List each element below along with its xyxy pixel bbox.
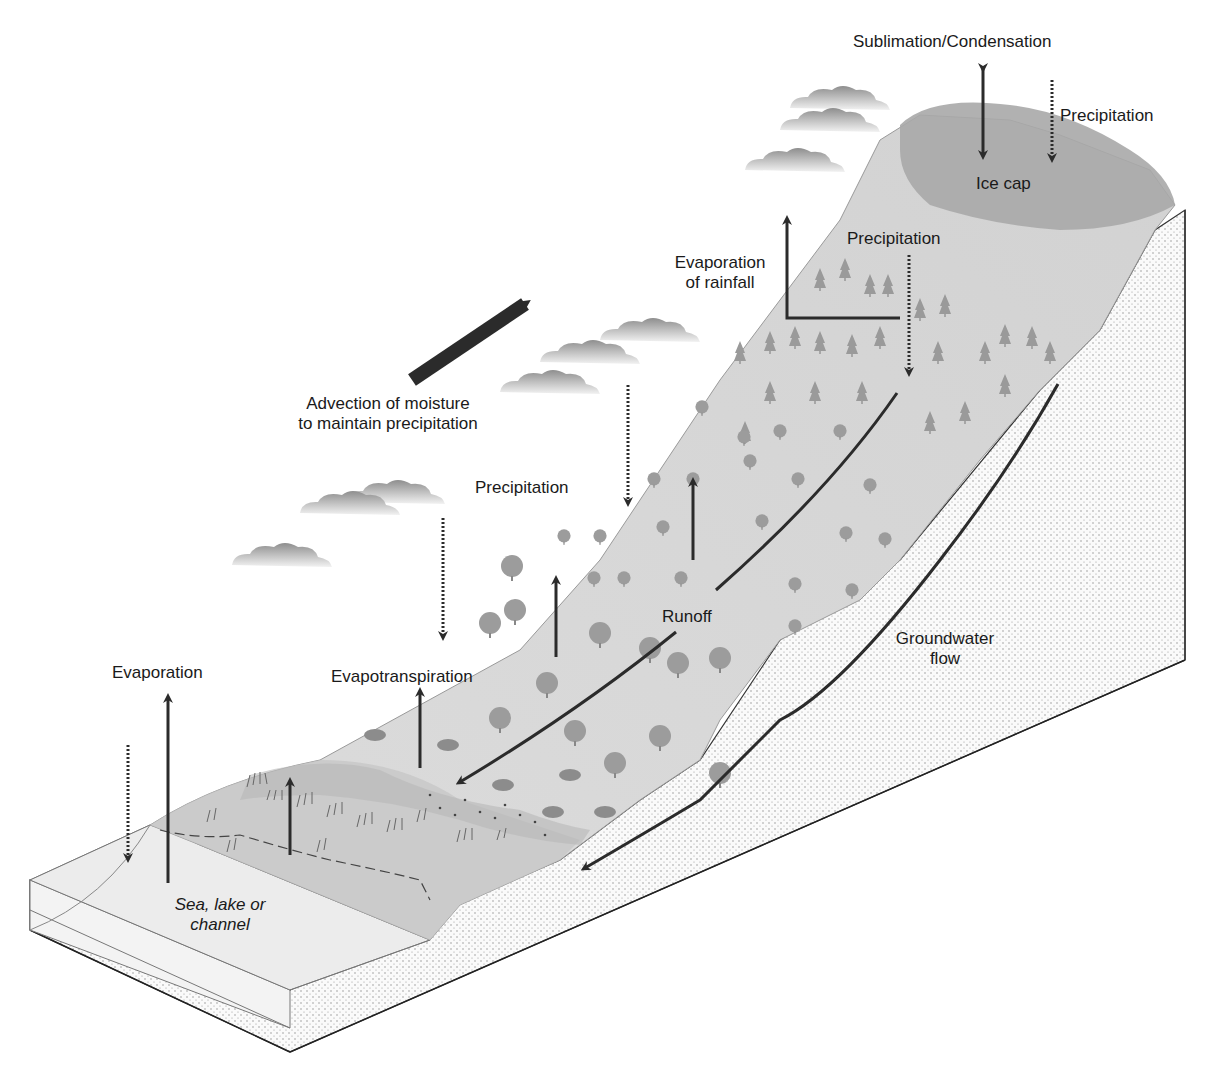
hydrological-cycle-diagram: Sublimation/Condensation Precipitation I… — [0, 0, 1206, 1080]
label-water-body-line2: channel — [160, 915, 280, 935]
label-evapotranspiration: Evapotranspiration — [331, 667, 473, 687]
advection-arrow — [412, 304, 525, 380]
label-runoff: Runoff — [662, 607, 712, 627]
label-groundwater-flow: Groundwater flow — [885, 629, 1005, 669]
label-advection-line2: to maintain precipitation — [268, 414, 508, 434]
label-ice-cap: Ice cap — [976, 174, 1031, 194]
label-sublimation-condensation: Sublimation/Condensation — [853, 32, 1051, 52]
label-evaporation-of-rainfall-line2: of rainfall — [660, 273, 780, 293]
label-precipitation-icecap: Precipitation — [1060, 106, 1154, 126]
cloud-icon — [232, 543, 332, 567]
cloud-icon — [745, 148, 845, 172]
cloud-icon — [540, 340, 640, 364]
cloud-icon — [790, 86, 890, 110]
cloud-icon — [600, 318, 700, 342]
cloud-icon — [780, 108, 880, 132]
cloud-icon — [500, 370, 600, 394]
label-advection-line1: Advection of moisture — [268, 394, 508, 414]
label-water-body-line1: Sea, lake or — [160, 895, 280, 915]
label-precipitation-mid: Precipitation — [475, 478, 569, 498]
label-groundwater-flow-line2: flow — [885, 649, 1005, 669]
label-evaporation-of-rainfall-line1: Evaporation — [660, 253, 780, 273]
label-evaporation: Evaporation — [112, 663, 203, 683]
label-water-body: Sea, lake or channel — [160, 895, 280, 935]
label-groundwater-flow-line1: Groundwater — [885, 629, 1005, 649]
label-precipitation-upper: Precipitation — [847, 229, 941, 249]
label-evaporation-of-rainfall: Evaporation of rainfall — [660, 253, 780, 293]
label-advection: Advection of moisture to maintain precip… — [268, 394, 508, 434]
